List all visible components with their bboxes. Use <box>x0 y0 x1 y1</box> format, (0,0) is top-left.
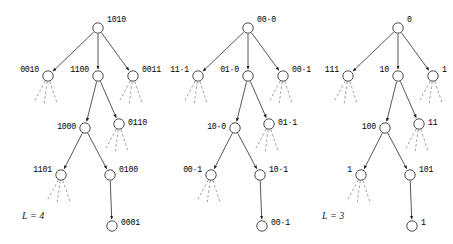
tree-2-edge-l2-3-stub-2 <box>279 82 282 105</box>
tree-1-label-l4-2: 0100 <box>119 165 138 174</box>
tree-2-node-l2-1[interactable] <box>193 71 203 81</box>
tree-3-edge-l4-1-stub-2 <box>357 181 360 204</box>
tree-1-edge-root-to-l2-3 <box>101 33 128 71</box>
tree-1-label-root: 1010 <box>107 15 126 24</box>
tree-2-edge-l2-3-stub-3 <box>285 82 292 103</box>
tree-1-edge-l3-2-stub-3 <box>121 130 128 151</box>
tree-3-edge-l4-1-stub-3 <box>363 181 370 202</box>
tree-1-node-l2-1[interactable] <box>43 71 53 81</box>
tree-2-edge-l2-to-l3-1 <box>237 82 247 122</box>
tree-3-node-l3-1[interactable] <box>380 123 390 133</box>
figure-container: 101000101100001110000110110101000001L = … <box>0 0 453 244</box>
tree-3-label-l2-1: 111 <box>325 65 339 74</box>
tree-3-edge-root-to-l2-3 <box>401 33 428 71</box>
tree-2-label-l2-3: 00·1 <box>292 65 311 74</box>
tree-3-edge-l3-2-stub-2 <box>415 130 418 153</box>
tree-1-node-l4-1[interactable] <box>56 170 66 180</box>
tree-2-label-l3-2: 01·1 <box>278 118 297 127</box>
tree-2-edge-l2-1-stub-1 <box>184 81 195 102</box>
tree-1-edge-l2-to-l3-1 <box>87 82 97 122</box>
tree-1-edge-l2-1-stub-3 <box>50 82 57 103</box>
tree-1-edge-l3-2-stub-2 <box>115 130 118 153</box>
tree-3-edge-l4-to-leaf <box>410 181 411 219</box>
tree-2-node-l4-2[interactable] <box>255 170 265 180</box>
tree-3-node-leaf[interactable] <box>407 221 417 231</box>
tree-2-label-l4-1: 00·1 <box>183 165 202 174</box>
tree-1-edge-l4-1-stub-3 <box>63 181 70 202</box>
tree-2-edge-l3-to-l4-2 <box>238 133 257 169</box>
tree-3-node-l4-1[interactable] <box>356 170 366 180</box>
tree-1-node-root[interactable] <box>93 23 103 33</box>
tree-3-label-l4-1: 1 <box>347 165 352 174</box>
tree-3-node-l2-2[interactable] <box>393 71 403 81</box>
tree-1-label-l3-1: 1000 <box>57 122 76 131</box>
tree-3-node-root[interactable] <box>393 23 403 33</box>
tree-2-edge-l2-1-stub-2 <box>194 82 197 105</box>
tree-3-label-l3-2: 11 <box>428 118 438 127</box>
tree-1-edge-l2-1-stub-1 <box>34 81 45 102</box>
tree-1-edge-l2-3-stub-3 <box>135 82 142 103</box>
tree-3-label-l4-2: 101 <box>419 165 433 174</box>
tree-3-node-l3-2[interactable] <box>414 119 424 129</box>
tree-3-label-l3-1: 100 <box>362 122 376 131</box>
tree-1-node-l2-3[interactable] <box>128 71 138 81</box>
tree-3-edge-l2-to-l3-2 <box>400 81 416 117</box>
tree-3-edge-l2-3-stub-1 <box>419 81 430 102</box>
tree-3-node-l2-3[interactable] <box>428 71 438 81</box>
tree-3-edge-l3-to-l4-2 <box>388 133 407 169</box>
tree-2-node-l2-2[interactable] <box>243 71 253 81</box>
tree-2-node-l3-2[interactable] <box>264 119 274 129</box>
tree-1-label-leaf: 0001 <box>121 218 140 227</box>
tree-3-edge-l2-to-l3-1 <box>387 82 397 122</box>
tree-2-edge-l4-1-stub-3 <box>213 181 220 202</box>
tree-2: 00·011·101·000·110·001·100·110·100·1 <box>170 15 311 231</box>
tree-1-level-caption: L = 4 <box>21 210 44 221</box>
tree-3: 01111011001111011L = 3 <box>321 15 447 231</box>
tree-2-edge-l3-2-stub-2 <box>265 130 268 153</box>
trees-group: 101000101100001110000110110101000001L = … <box>20 15 447 231</box>
tree-2-node-l3-1[interactable] <box>230 123 240 133</box>
tree-1-node-leaf[interactable] <box>107 221 117 231</box>
tree-3-edge-l2-1-stub-1 <box>334 81 345 102</box>
tree-2-node-l4-1[interactable] <box>206 170 216 180</box>
tree-2-edge-l4-1-stub-2 <box>207 181 210 204</box>
tree-1-edge-l4-1-stub-2 <box>57 181 60 204</box>
tree-1-edge-l2-3-stub-1 <box>119 81 130 102</box>
tree-1-edge-l4-to-leaf <box>110 181 111 219</box>
tree-1-node-l3-1[interactable] <box>80 123 90 133</box>
tree-1-edge-l2-3-stub-2 <box>129 82 132 105</box>
trees-diagram: 101000101100001110000110110101000001L = … <box>0 0 453 244</box>
tree-1-edge-l3-to-l4-2 <box>88 133 107 169</box>
tree-1-node-l3-2[interactable] <box>114 119 124 129</box>
tree-3-label-leaf: 1 <box>421 218 426 227</box>
tree-3-label-root: 0 <box>407 15 412 24</box>
tree-2-edge-l2-3-stub-1 <box>269 81 280 102</box>
tree-3-edge-l2-3-stub-3 <box>435 82 442 103</box>
tree-2-node-leaf[interactable] <box>257 221 267 231</box>
tree-3-label-l2-2: 10 <box>380 65 390 74</box>
tree-3-node-l4-2[interactable] <box>405 170 415 180</box>
tree-3-level-caption: L = 3 <box>321 210 344 221</box>
tree-3-label-l2-3: 1 <box>442 65 447 74</box>
tree-2-node-l2-3[interactable] <box>278 71 288 81</box>
tree-2-edge-l2-to-l3-2 <box>250 81 266 117</box>
tree-3-edge-l3-2-stub-3 <box>421 130 428 151</box>
tree-1-label-l2-1: 0010 <box>20 65 39 74</box>
tree-2-edge-root-to-l2-3 <box>251 33 278 71</box>
tree-3-edge-l2-1-stub-2 <box>344 82 347 105</box>
tree-2-edge-l3-2-stub-3 <box>271 130 278 151</box>
tree-2-label-root: 00·0 <box>257 15 276 24</box>
tree-2-edge-l3-2-stub-1 <box>255 129 266 150</box>
tree-2-label-l2-2: 01·0 <box>220 65 239 74</box>
tree-3-edge-l2-3-stub-2 <box>429 82 432 105</box>
tree-1-node-l4-2[interactable] <box>105 170 115 180</box>
tree-3-edge-l4-1-stub-1 <box>347 180 358 201</box>
tree-2-node-root[interactable] <box>243 23 253 33</box>
tree-2-edge-l3-to-l4-1 <box>214 133 232 169</box>
tree-1-node-l2-2[interactable] <box>93 71 103 81</box>
tree-2-edge-l2-1-stub-3 <box>200 82 207 103</box>
tree-3-node-l2-1[interactable] <box>343 71 353 81</box>
tree-1-edge-l4-1-stub-1 <box>47 180 58 201</box>
tree-3-edge-l3-to-l4-1 <box>364 133 382 169</box>
tree-1-edge-l2-to-l3-2 <box>100 81 116 117</box>
